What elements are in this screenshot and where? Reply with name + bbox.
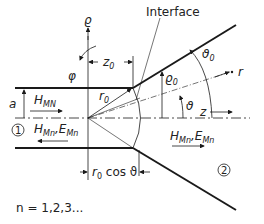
region-2-fields: HMn,EMn bbox=[170, 129, 214, 145]
h-mn-label: HMN bbox=[34, 93, 56, 109]
region-1-label: 1 bbox=[15, 125, 21, 136]
horn-lower-wall bbox=[133, 148, 236, 210]
r-ray bbox=[88, 72, 230, 118]
interface-leader bbox=[136, 18, 160, 100]
a-label: a bbox=[9, 97, 16, 111]
rho0-label: ϱ0 bbox=[165, 71, 178, 87]
theta0-label: ϑ0 bbox=[202, 47, 215, 63]
r0-label: r0 bbox=[99, 89, 109, 105]
phi-label: φ bbox=[68, 69, 76, 83]
rho-label: ϱ bbox=[84, 13, 92, 27]
region-1-fields: HMn,EMn bbox=[34, 122, 78, 138]
region-2-label: 2 bbox=[221, 165, 227, 176]
n-values-label: n = 1,2,3... bbox=[16, 201, 83, 215]
theta-label: ϑ bbox=[186, 99, 194, 113]
interface-label: Interface bbox=[146, 5, 200, 19]
waveguide-horn-diagram: ϱ φ z0 r0 r Interface ϱ0 ϑ ϑ0 z a HMN 1 … bbox=[0, 0, 264, 224]
z0-label: z0 bbox=[102, 55, 114, 71]
r0-ray bbox=[88, 89, 131, 118]
r-label: r bbox=[238, 65, 244, 79]
r0-cos-theta-label: r0 cos ϑ bbox=[92, 165, 137, 181]
z-axis-label: z bbox=[199, 105, 207, 119]
